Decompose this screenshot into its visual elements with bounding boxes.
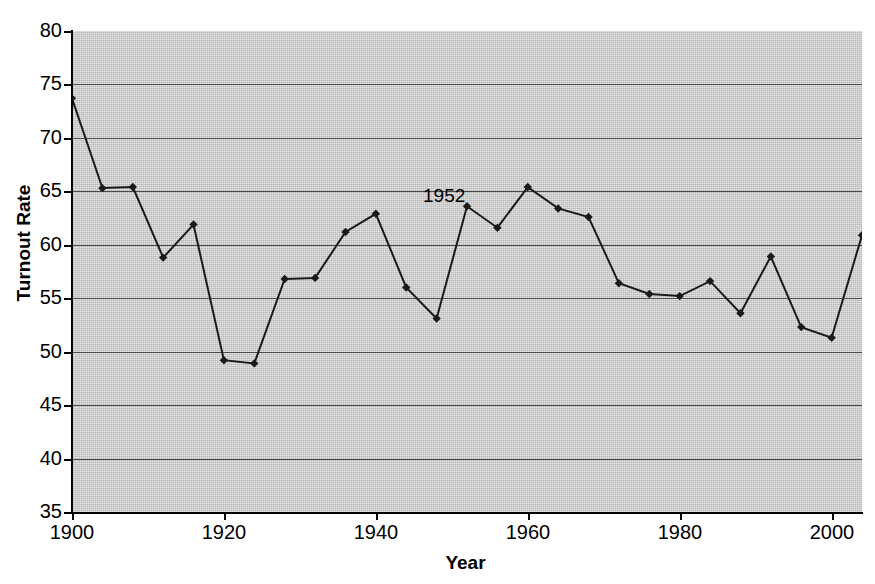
data-point-marker: [280, 275, 288, 283]
y-axis-tick: [64, 31, 71, 33]
x-axis-tick: [832, 513, 834, 520]
data-point-marker: [767, 252, 775, 260]
data-point-marker: [584, 213, 592, 221]
x-axis-tick: [680, 513, 682, 520]
x-axis-tick: [224, 513, 226, 520]
x-axis-tick-label: 1960: [483, 522, 573, 542]
y-axis-tick: [64, 245, 71, 247]
y-axis-tick-label: 80: [2, 20, 62, 40]
x-axis-title: Year: [0, 552, 875, 574]
data-point-marker: [372, 210, 380, 218]
data-point-marker: [827, 334, 835, 342]
turnout-series: [72, 31, 862, 512]
data-point-marker: [129, 183, 137, 191]
y-axis-tick-label: 35: [2, 501, 62, 521]
x-axis-tick-label: 2000: [787, 522, 875, 542]
turnout-rate-line-chart: 35404550556065707580 Turnout Rate 1952 1…: [0, 0, 875, 584]
y-axis-tick-label: 75: [2, 73, 62, 93]
series-markers: [72, 94, 862, 367]
x-axis-line: [71, 512, 863, 514]
y-axis-tick: [64, 405, 71, 407]
data-point-marker: [645, 290, 653, 298]
x-axis-tick: [528, 513, 530, 520]
plot-area: 1952: [72, 31, 862, 512]
x-axis-tick-label: 1940: [331, 522, 421, 542]
data-point-marker: [675, 292, 683, 300]
x-axis-tick: [376, 513, 378, 520]
y-axis-tick: [64, 84, 71, 86]
y-axis-tick-label: 40: [2, 448, 62, 468]
data-point-marker: [797, 323, 805, 331]
y-axis-tick: [64, 138, 71, 140]
y-axis-tick: [64, 352, 71, 354]
series-line: [72, 98, 862, 363]
y-axis-tick-label: 45: [2, 394, 62, 414]
y-axis-tick-label: 70: [2, 127, 62, 147]
y-axis-title: Turnout Rate: [13, 163, 35, 323]
data-point-marker: [98, 184, 106, 192]
x-axis-title-text: Year: [445, 552, 485, 573]
x-axis-tick-label: 1920: [179, 522, 269, 542]
y-axis-tick-label: 50: [2, 341, 62, 361]
y-axis-tick: [64, 459, 71, 461]
data-point-marker: [220, 356, 228, 364]
chart-annotation: 1952: [423, 186, 465, 205]
y-axis-tick: [64, 191, 71, 193]
data-point-marker: [858, 231, 862, 239]
y-axis-tick: [64, 298, 71, 300]
data-point-marker: [250, 359, 258, 367]
x-axis-tick-label: 1900: [27, 522, 117, 542]
y-axis-line: [71, 30, 73, 513]
x-axis-tick: [72, 513, 74, 520]
x-axis-tick-label: 1980: [635, 522, 725, 542]
y-axis-tick: [64, 512, 71, 514]
data-point-marker: [615, 279, 623, 287]
